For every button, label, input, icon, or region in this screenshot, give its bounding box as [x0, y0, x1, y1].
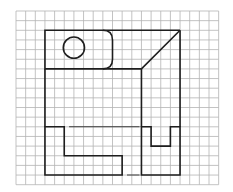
- grid-lines: [16, 11, 219, 185]
- grid-diagram: [0, 0, 233, 192]
- hidden-lines: [69, 127, 139, 175]
